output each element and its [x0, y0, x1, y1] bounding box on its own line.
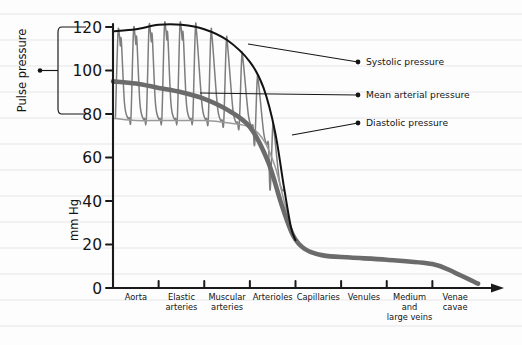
x-category-label: Arterioles — [253, 292, 293, 302]
y-axis-title: mm Hg — [67, 199, 81, 241]
annotation-label-systolic: Systolic pressure — [366, 56, 444, 67]
y-tick-label: 0 — [92, 280, 102, 298]
y-tick-label: 40 — [82, 193, 102, 211]
pulse-pressure-label: Pulse pressure — [15, 29, 29, 113]
bracket-dot — [38, 68, 43, 73]
y-tick-label: 100 — [72, 62, 102, 80]
annotation-label-mean: Mean arterial pressure — [366, 89, 470, 100]
y-tick-label: 20 — [82, 236, 102, 254]
y-tick-label: 60 — [82, 149, 102, 167]
x-category-label: Aorta — [125, 292, 147, 302]
annotation-label-diastolic: Diastolic pressure — [366, 117, 448, 128]
leader-dot-systolic — [356, 60, 361, 65]
blood-pressure-chart: 020406080100120 AortaElasticarteriesMusc… — [0, 0, 522, 345]
leader-dot-mean — [356, 93, 361, 98]
leader-dot-diastolic — [356, 121, 361, 126]
x-category-label: Venules — [348, 292, 380, 302]
x-category-label: Capillaries — [297, 292, 340, 302]
x-category-label: Musculararteries — [208, 292, 246, 312]
x-category-label: Elasticarteries — [165, 292, 197, 312]
x-category-label: Venaecavae — [442, 292, 468, 312]
